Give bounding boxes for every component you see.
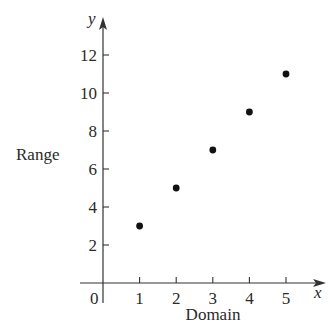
y-tick-label: 8 bbox=[89, 122, 98, 141]
x-tick-label: 5 bbox=[282, 289, 291, 308]
data-point bbox=[209, 147, 216, 154]
data-point bbox=[283, 71, 290, 78]
y-tick-label: 10 bbox=[80, 84, 97, 103]
y-tick-label: 2 bbox=[89, 236, 98, 255]
y-axis-label: Range bbox=[16, 145, 59, 164]
origin-label: 0 bbox=[90, 289, 99, 308]
x-tick-label: 2 bbox=[172, 289, 181, 308]
ticks: 1234524681012 bbox=[80, 46, 290, 308]
axes bbox=[80, 17, 326, 303]
data-points bbox=[136, 71, 289, 230]
scatter-chart: 1234524681012 Range Domain y x 0 bbox=[0, 0, 330, 327]
y-tick-label: 6 bbox=[89, 160, 98, 179]
x-tick-label: 4 bbox=[245, 289, 254, 308]
y-tick-label: 12 bbox=[80, 46, 97, 65]
data-point bbox=[173, 185, 180, 192]
x-axis-label: Domain bbox=[186, 305, 241, 324]
x-tick-label: 1 bbox=[135, 289, 144, 308]
data-point bbox=[136, 223, 143, 230]
x-axis-symbol: x bbox=[313, 283, 322, 302]
data-point bbox=[246, 109, 253, 116]
y-tick-label: 4 bbox=[89, 198, 98, 217]
y-axis-symbol: y bbox=[86, 9, 96, 28]
